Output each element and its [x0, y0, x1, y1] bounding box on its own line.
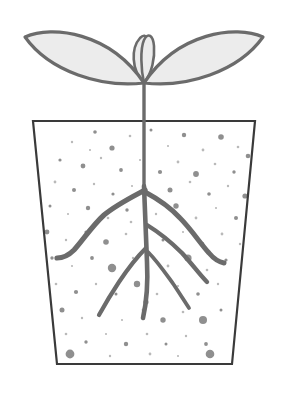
- soil-dot: [103, 239, 109, 245]
- soil-dot: [71, 141, 73, 143]
- soil-dot: [232, 170, 235, 173]
- soil-dot: [115, 293, 118, 296]
- soil-dot: [202, 149, 205, 152]
- soil-dot: [220, 309, 223, 312]
- right-leaf: [144, 32, 263, 84]
- soil-dot: [217, 283, 219, 285]
- soil-dot: [111, 192, 114, 195]
- soil-dot: [74, 290, 78, 294]
- soil-dot: [49, 205, 52, 208]
- left-leaf: [25, 32, 144, 84]
- soil-dot: [107, 217, 110, 220]
- soil-dot: [150, 129, 153, 132]
- soil-dot: [50, 256, 53, 259]
- soil-dot: [204, 342, 208, 346]
- soil-dot: [214, 163, 217, 166]
- soil-dot: [155, 213, 157, 215]
- soil-dot: [199, 316, 207, 324]
- soil-dot: [234, 216, 238, 220]
- soil-dot: [66, 350, 75, 359]
- soil-dot: [93, 130, 97, 134]
- soil-dot: [100, 157, 102, 159]
- soil-dot: [81, 317, 83, 319]
- soil-dot: [109, 145, 114, 150]
- soil-dot: [95, 283, 97, 285]
- soil-dot: [130, 221, 133, 224]
- soil-dot: [182, 311, 185, 314]
- soil-dot: [58, 158, 61, 161]
- seedling-illustration-svg: [0, 0, 286, 399]
- soil-dot: [125, 233, 128, 236]
- soil-dot: [158, 170, 162, 174]
- soil-dot: [146, 333, 149, 336]
- soil-dot: [119, 168, 123, 172]
- soil-dot: [45, 230, 50, 235]
- soil-dot: [160, 317, 165, 322]
- soil-dot: [227, 185, 229, 187]
- soil-dot: [139, 159, 141, 161]
- soil-dot: [109, 355, 111, 357]
- soil-dot: [71, 265, 73, 267]
- soil-dot: [156, 293, 159, 296]
- soil-dot: [84, 340, 87, 343]
- soil-dot: [105, 333, 107, 335]
- soil-dot: [134, 281, 140, 287]
- soil-dot: [185, 335, 187, 337]
- soil-dot: [168, 188, 173, 193]
- soil-dot: [81, 164, 86, 169]
- soil-dot: [124, 342, 128, 346]
- soil-dot: [54, 181, 57, 184]
- soil-dot: [177, 355, 179, 357]
- soil-dot: [189, 181, 192, 184]
- soil-dot: [65, 239, 67, 241]
- soil-dot: [149, 353, 152, 356]
- soil-dot: [239, 243, 241, 245]
- soil-dot: [246, 154, 251, 159]
- soil-dot: [129, 135, 132, 138]
- soil-dot: [93, 183, 95, 185]
- seedling-illustration-canvas: [0, 0, 286, 399]
- soil-dot: [182, 231, 184, 233]
- soil-dot: [193, 171, 199, 177]
- soil-dot: [65, 333, 68, 336]
- soil-dot: [167, 265, 170, 268]
- soil-dot: [207, 192, 211, 196]
- soil-dot: [215, 207, 217, 209]
- soil-dot: [177, 161, 180, 164]
- soil-dot: [86, 206, 90, 210]
- soil-dot: [55, 283, 58, 286]
- soil-dot: [206, 350, 215, 359]
- soil-dot: [221, 233, 224, 236]
- soil-dot: [108, 264, 116, 272]
- soil-dot: [60, 308, 65, 313]
- soil-dot: [218, 134, 224, 140]
- soil-dot: [196, 292, 200, 296]
- soil-dot: [125, 208, 128, 211]
- soil-dot: [237, 146, 240, 149]
- soil-dot: [67, 213, 69, 215]
- soil-dot: [121, 319, 123, 321]
- soil-dot: [195, 217, 198, 220]
- soil-dot: [173, 203, 178, 208]
- soil-dot: [72, 188, 76, 192]
- soil-dot: [206, 269, 209, 272]
- soil-dot: [167, 145, 169, 147]
- soil-dot: [182, 133, 186, 137]
- soil-dot: [89, 149, 91, 151]
- soil-dot: [165, 343, 168, 346]
- soil-dot: [131, 185, 133, 187]
- soil-dot: [90, 256, 94, 260]
